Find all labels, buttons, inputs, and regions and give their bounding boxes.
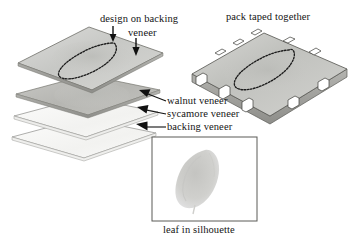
tape-tab [215, 49, 226, 55]
label-leaf-in-silhouette: leaf in silhouette [163, 224, 235, 236]
label-backing-veneer: backing veneer [167, 121, 232, 133]
label-sycamore-veneer: sycamore veneer [167, 108, 239, 120]
label-veneer: veneer [128, 27, 157, 39]
veneer-pack-diagram: design on backing veneer pack taped toge… [0, 0, 352, 243]
label-pack-taped-together: pack taped together [226, 11, 310, 23]
pack-shading [223, 52, 313, 92]
tape-tab [233, 39, 244, 45]
design-veneer-shading [52, 41, 132, 75]
tape-tab [251, 29, 262, 35]
leaf-silhouette-frame [152, 137, 257, 221]
label-walnut-veneer: walnut veneer [167, 95, 227, 107]
label-design-on-backing: design on backing [100, 13, 178, 25]
exploded-veneer-stack [12, 26, 166, 161]
arrow-backing [136, 122, 166, 131]
